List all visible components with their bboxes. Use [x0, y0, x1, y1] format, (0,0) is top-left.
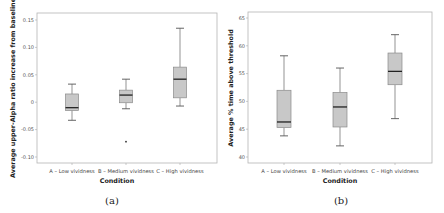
y-tick-label: 60: [239, 43, 245, 49]
panel-caption: (a): [105, 195, 119, 206]
x-axis-title: Condition: [100, 177, 135, 185]
x-category-label: A – Low vividness: [261, 168, 307, 174]
iqr-box: [388, 53, 402, 85]
iqr-box: [333, 93, 347, 127]
y-tick: 45: [239, 126, 248, 132]
plot-frame: [37, 13, 217, 163]
y-tick: 50: [239, 98, 248, 104]
y-tick-label: -0.05: [21, 126, 34, 132]
y-tick: 40: [239, 154, 248, 160]
box-c: [388, 35, 402, 119]
y-tick-label: 65: [239, 15, 245, 21]
x-category-label: B – Medium vividness: [98, 168, 154, 174]
outlier-point: [125, 141, 127, 143]
boxplot-a: 0.150.100.050-0.05-0.10 A – Low vividnes…: [0, 0, 222, 213]
box-a: [66, 84, 79, 120]
y-tick: 0: [31, 99, 37, 105]
y-axis-ticks: 0.150.100.050-0.05-0.10: [21, 17, 37, 160]
y-tick: 0.05: [23, 72, 37, 78]
y-tick: -0.05: [21, 126, 37, 132]
panel-caption: (b): [334, 195, 348, 206]
y-axis-ticks: 656055504540: [239, 15, 248, 160]
boxes: [277, 35, 402, 146]
y-tick-label: 40: [239, 154, 245, 160]
y-axis-title: Average upper-Alpha ratio increase from …: [9, 0, 17, 178]
y-axis-title: Average % time above threshold: [227, 29, 235, 147]
x-axis-title: Condition: [323, 177, 358, 185]
y-tick-label: 0: [31, 99, 34, 105]
x-category-label: B – Medium vividness: [312, 168, 368, 174]
y-tick-label: 55: [239, 70, 245, 76]
x-axis-categories: A – Low vividnessB – Medium vividnessC –…: [49, 163, 204, 175]
y-tick-label: 0.15: [23, 17, 34, 23]
x-category-label: C – High vividness: [371, 168, 419, 175]
x-category-label: A – Low vividness: [49, 168, 95, 174]
boxes: [66, 28, 187, 142]
iqr-box: [174, 67, 187, 98]
y-tick-label: 45: [239, 126, 245, 132]
boxplot-b: 656055504540 A – Low vividnessB – Medium…: [222, 0, 444, 213]
x-axis-categories: A – Low vividnessB – Medium vividnessC –…: [261, 163, 419, 175]
y-tick: -0.10: [21, 154, 37, 160]
chart-panel-b: 656055504540 A – Low vividnessB – Medium…: [222, 0, 444, 213]
y-tick: 0.15: [23, 17, 37, 23]
y-tick: 0.10: [23, 44, 37, 50]
y-tick: 60: [239, 43, 248, 49]
y-tick-label: 0.10: [23, 44, 34, 50]
y-tick-label: -0.10: [21, 154, 34, 160]
box-b: [120, 79, 133, 142]
iqr-box: [120, 90, 133, 103]
box-b: [333, 68, 347, 146]
y-tick-label: 50: [239, 98, 245, 104]
box-c: [174, 28, 187, 106]
y-tick-label: 0.05: [23, 72, 34, 78]
box-a: [277, 56, 291, 136]
y-tick: 55: [239, 70, 248, 76]
x-category-label: C – High vividness: [156, 168, 204, 175]
y-tick: 65: [239, 15, 248, 21]
chart-panel-a: 0.150.100.050-0.05-0.10 A – Low vividnes…: [0, 0, 222, 213]
